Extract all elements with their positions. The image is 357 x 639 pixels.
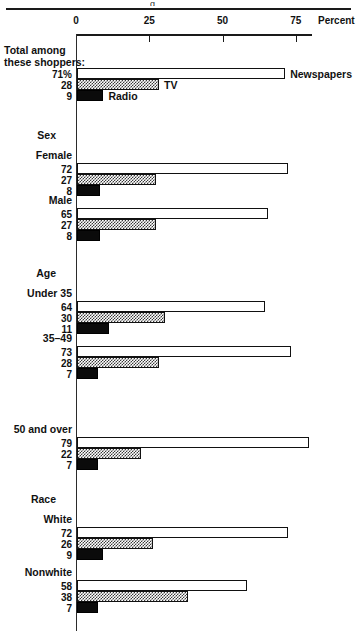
- bar-newspapers: [77, 163, 288, 174]
- bar-tv: [77, 79, 159, 90]
- bar-radio: [77, 323, 109, 334]
- value-label-newspapers: 71%: [0, 69, 72, 80]
- category-label-50-and-over: 50 and over: [0, 424, 72, 435]
- group-header-sex: Sex: [0, 130, 56, 141]
- value-label-tv: 26: [0, 539, 72, 550]
- value-label-newspapers: 65: [0, 209, 72, 220]
- x-axis-tick-75: [296, 36, 297, 42]
- value-label-tv: 30: [0, 313, 72, 324]
- value-label-tv: 38: [0, 592, 72, 603]
- value-label-tv: 28: [0, 80, 72, 91]
- bar-radio: [77, 185, 100, 196]
- value-label-radio: 9: [0, 91, 72, 102]
- value-label-radio: 7: [0, 460, 72, 471]
- series-label-radio: Radio: [108, 91, 137, 102]
- category-label-total: Total amongthese shoppers:: [4, 44, 74, 68]
- value-label-newspapers: 79: [0, 438, 72, 449]
- category-label-white: White: [0, 514, 72, 525]
- value-label-newspapers: 64: [0, 302, 72, 313]
- bar-tv: [77, 591, 188, 602]
- bar-tv: [77, 219, 156, 230]
- x-axis-title: Percent: [318, 16, 355, 26]
- category-label-line: these shoppers:: [4, 56, 74, 68]
- bar-radio: [77, 90, 103, 101]
- bar-radio: [77, 230, 100, 241]
- category-label-nonwhite: Nonwhite: [0, 567, 72, 578]
- value-label-radio: 8: [0, 231, 72, 242]
- category-label-under-35: Under 35: [0, 288, 72, 299]
- value-label-newspapers: 58: [0, 581, 72, 592]
- bar-newspapers: [77, 208, 268, 219]
- category-label-male: Male: [0, 195, 72, 206]
- value-label-tv: 28: [0, 358, 72, 369]
- clipped-title-fragment: g: [150, 0, 174, 6]
- bar-newspapers: [77, 527, 288, 538]
- bar-newspapers: [77, 301, 265, 312]
- bar-radio: [77, 368, 98, 379]
- value-label-tv: 27: [0, 220, 72, 231]
- category-label-line: Total among: [4, 44, 74, 56]
- bar-radio: [77, 459, 98, 470]
- value-label-radio: 9: [0, 550, 72, 561]
- bar-tv: [77, 174, 156, 185]
- bar-newspapers: [77, 580, 247, 591]
- value-label-newspapers: 73: [0, 347, 72, 358]
- group-header-race: Race: [0, 494, 56, 505]
- value-label-radio: 7: [0, 369, 72, 380]
- bar-tv: [77, 312, 165, 323]
- x-axis-tick-25: [149, 36, 150, 42]
- bar-radio: [77, 549, 103, 560]
- bar-radio: [77, 602, 98, 613]
- series-label-newspapers: Newspapers: [290, 69, 352, 80]
- x-axis-tick-label-25: 25: [144, 16, 155, 26]
- group-header-age: Age: [0, 268, 56, 279]
- x-axis-tick-label-0: 0: [73, 16, 79, 26]
- x-axis-line: [76, 34, 312, 36]
- x-axis-tick-label-75: 75: [290, 16, 301, 26]
- bar-tv: [77, 448, 141, 459]
- value-label-newspapers: 72: [0, 528, 72, 539]
- bar-tv: [77, 538, 153, 549]
- bar-tv: [77, 357, 159, 368]
- value-label-radio: 7: [0, 603, 72, 614]
- category-label-female: Female: [0, 150, 72, 161]
- value-label-newspapers: 72: [0, 164, 72, 175]
- header-rule: [6, 8, 351, 10]
- series-label-tv: TV: [164, 80, 177, 91]
- category-label-35-49: 35–49: [0, 333, 72, 344]
- value-label-tv: 22: [0, 449, 72, 460]
- bar-newspapers: [77, 437, 309, 448]
- value-label-tv: 27: [0, 175, 72, 186]
- bar-newspapers: [77, 68, 285, 79]
- x-axis-tick-50: [223, 36, 224, 42]
- x-axis-tick-label-50: 50: [217, 16, 228, 26]
- bar-newspapers: [77, 346, 291, 357]
